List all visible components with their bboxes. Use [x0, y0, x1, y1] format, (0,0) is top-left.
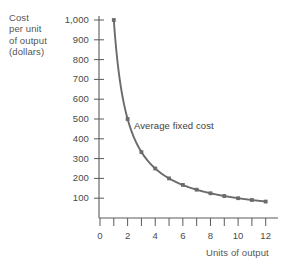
data-point-marker [195, 188, 199, 192]
data-point-marker [250, 198, 254, 202]
x-axis-tick-label: 6 [173, 230, 193, 241]
data-point-marker [126, 117, 130, 121]
x-axis-tick-label: 8 [200, 230, 220, 241]
data-point-marker [209, 191, 213, 195]
y-axis-tick-label: 100 [51, 192, 89, 203]
x-axis-tick-label: 0 [90, 230, 110, 241]
y-axis-tick-label: 600 [51, 93, 89, 104]
y-axis-tick-label: 400 [51, 133, 89, 144]
data-point-marker [181, 183, 185, 187]
y-axis-tick-label: 700 [51, 73, 89, 84]
chart-figure: Cost per unit of output (dollars) Averag… [0, 0, 297, 263]
x-axis-tick-label: 10 [228, 230, 248, 241]
data-point-marker [167, 177, 171, 181]
chart-plot-area [0, 0, 297, 263]
data-point-marker [264, 200, 268, 204]
y-axis-tick-label: 1,000 [51, 14, 89, 25]
data-point-marker [222, 194, 226, 198]
data-point-marker [153, 167, 157, 171]
y-axis-tick-label: 900 [51, 34, 89, 45]
series-line-average-fixed-cost [114, 20, 266, 202]
x-axis-tick-label: 4 [145, 230, 165, 241]
y-axis-tick-label: 200 [51, 172, 89, 183]
y-axis-tick-label: 300 [51, 153, 89, 164]
y-axis-tick-label: 500 [51, 113, 89, 124]
data-point-marker [112, 18, 116, 22]
x-axis-tick-label: 2 [118, 230, 138, 241]
data-point-marker [140, 150, 144, 154]
data-point-marker [236, 196, 240, 200]
y-axis-tick-label: 800 [51, 54, 89, 65]
x-axis-tick-label: 12 [256, 230, 276, 241]
